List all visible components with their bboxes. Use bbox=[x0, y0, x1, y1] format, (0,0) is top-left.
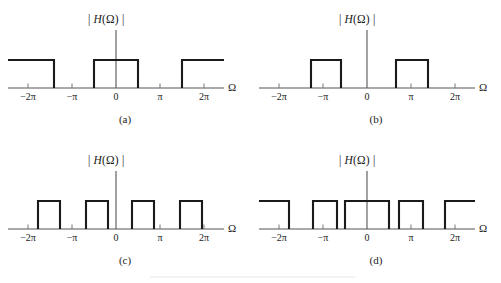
panel-b-ticklabel--2pi: −2π bbox=[271, 91, 287, 102]
panel-b-band-2 bbox=[396, 60, 428, 88]
panel-a-xaxis-label: Ω bbox=[228, 81, 236, 93]
panel-a-band-1 bbox=[8, 60, 54, 88]
panel-b-ticklabel--pi: −π bbox=[318, 91, 329, 102]
panel-d-ticklabel-0: 0 bbox=[365, 232, 370, 243]
panel-c-ticklabel--pi: −π bbox=[67, 232, 78, 243]
panel-d-band-2 bbox=[313, 201, 337, 229]
panel-b-caption: (b) bbox=[251, 113, 501, 125]
panel-b-ticklabel-2pi: 2π bbox=[450, 91, 460, 102]
panel-d: | H(Ω) | −2π −π 0 π 2π Ω (d) bbox=[251, 141, 501, 282]
panel-a: | H(Ω) | −2π −π 0 π 2π Ω (a) bbox=[0, 0, 250, 141]
panel-c-band-3 bbox=[132, 201, 154, 229]
panel-c-ticklabel-0: 0 bbox=[114, 232, 119, 243]
panel-a-ticklabel-2pi: 2π bbox=[199, 91, 209, 102]
panel-b-ticklabel-pi: π bbox=[408, 91, 413, 102]
panel-a-ticklabel-0: 0 bbox=[114, 91, 119, 102]
panel-b-band-1 bbox=[311, 60, 341, 88]
panel-d-ticklabel--pi: −π bbox=[318, 232, 329, 243]
figure-magnitude-responses: | H(Ω) | −2π −π 0 π 2π Ω (a) bbox=[0, 0, 501, 283]
panel-b: | H(Ω) | −2π −π 0 π 2π Ω (b) bbox=[251, 0, 501, 141]
panel-d-band-1 bbox=[259, 201, 289, 229]
panel-d-band-5 bbox=[445, 201, 475, 229]
panel-c-band-1 bbox=[38, 201, 60, 229]
panel-d-ticklabel--2pi: −2π bbox=[271, 232, 287, 243]
panel-d-ticklabel-pi: π bbox=[408, 232, 413, 243]
panel-c-ticklabel--2pi: −2π bbox=[20, 232, 36, 243]
panel-c-caption: (c) bbox=[0, 254, 250, 266]
panel-b-ticklabel-0: 0 bbox=[365, 91, 370, 102]
panel-d-xaxis-label: Ω bbox=[479, 222, 487, 234]
panel-c-band-4 bbox=[180, 201, 202, 229]
panel-d-ticklabel-2pi: 2π bbox=[450, 232, 460, 243]
panel-d-caption: (d) bbox=[251, 254, 501, 266]
scan-artifact bbox=[150, 276, 355, 278]
panel-c-xaxis-label: Ω bbox=[228, 222, 236, 234]
panel-a-band-3 bbox=[182, 60, 224, 88]
panel-a-ticklabel-pi: π bbox=[157, 91, 162, 102]
panel-c: | H(Ω) | −2π −π 0 π 2π Ω (c) bbox=[0, 141, 250, 282]
panel-c-band-2 bbox=[86, 201, 108, 229]
panel-a-ticklabel--pi: −π bbox=[67, 91, 78, 102]
panel-b-xaxis-label: Ω bbox=[479, 81, 487, 93]
panel-a-ticklabel--2pi: −2π bbox=[20, 91, 36, 102]
panel-c-ticklabel-pi: π bbox=[157, 232, 162, 243]
panel-c-ticklabel-2pi: 2π bbox=[199, 232, 209, 243]
panel-a-caption: (a) bbox=[0, 113, 250, 125]
